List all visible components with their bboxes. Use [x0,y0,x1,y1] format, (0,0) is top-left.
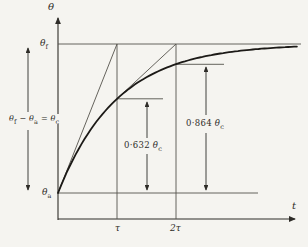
rise-864-value: 0·864 [186,118,212,128]
theta-ambient-label: θa [40,187,53,198]
rise-632-theta-sub: c [158,145,162,153]
x-tick-two-tau: 2τ [168,223,183,234]
theta-final-label: θf [38,38,50,49]
x-axis-label: t [290,200,298,212]
rise-632-value: 0·632 [124,140,150,150]
rise-632-label: 0·632 θc [122,140,164,151]
eq-minus-sign: − [19,114,26,123]
x-tick-tau: τ [113,223,122,234]
theta-ambient-sub: a [47,192,51,200]
theta-c-equation-label: θf − θa = θc [7,114,61,124]
eq-theta-a-sub: a [34,118,38,126]
exponential-response-figure: θ t θf θa θf − θa = θc 0·632 θc 0·864 θc… [0,0,308,247]
eq-equals-sign: = [41,114,48,123]
eq-theta-c-sub: c [56,118,60,126]
rise-864-label: 0·864 θc [184,118,226,129]
theta-final-sub: f [45,43,47,51]
rise-864-theta-sub: c [220,123,224,131]
eq-theta-f-sub: f [14,118,17,126]
y-axis-label: θ [46,1,56,13]
response-curve [58,47,297,193]
